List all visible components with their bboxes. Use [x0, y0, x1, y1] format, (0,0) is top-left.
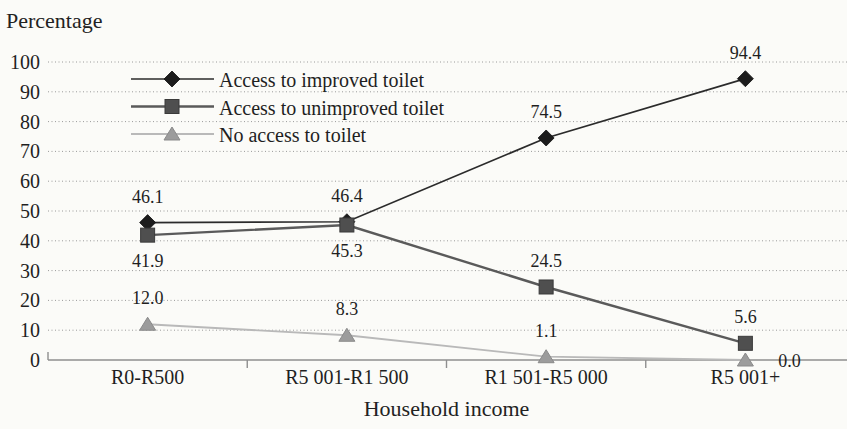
data-label-series0-1: 46.4	[331, 186, 363, 206]
marker-square-3	[738, 336, 752, 350]
series-line-2	[148, 324, 746, 360]
chart-figure: Percentage 0102030405060708090100R0-R500…	[0, 0, 847, 429]
data-label-series2-2: 1.1	[535, 321, 558, 341]
data-label-series0-3: 94.4	[730, 43, 762, 63]
data-label-series0-0: 46.1	[132, 187, 164, 207]
data-label-series0-2: 74.5	[530, 102, 562, 122]
y-tick-label: 60	[20, 170, 40, 192]
legend-square-icon	[165, 100, 179, 114]
legend-label-1: Access to unimproved toilet	[219, 97, 444, 120]
y-tick-label: 80	[20, 111, 40, 133]
y-tick-label: 70	[20, 140, 40, 162]
y-tick-label: 0	[30, 349, 40, 371]
x-tick-label: R5 001+	[711, 366, 781, 388]
legend-diamond-icon	[164, 71, 180, 87]
series-line-1	[148, 225, 746, 343]
x-tick-label: R0-R500	[111, 366, 184, 388]
marker-square-0	[141, 228, 155, 242]
data-label-series1-1: 45.3	[331, 241, 363, 261]
data-label-series2-1: 8.3	[336, 299, 359, 319]
legend-label-0: Access to improved toilet	[219, 69, 424, 92]
y-tick-label: 40	[20, 230, 40, 252]
y-tick-label: 50	[20, 200, 40, 222]
data-label-series1-2: 24.5	[530, 251, 562, 271]
data-label-series2-3: 0.0	[778, 351, 801, 371]
x-tick-label: R1 501-R5 000	[484, 366, 607, 388]
marker-diamond-2	[538, 130, 554, 146]
marker-square-1	[340, 218, 354, 232]
x-axis-title: Household income	[48, 396, 845, 422]
marker-square-2	[539, 280, 553, 294]
data-label-series1-3: 5.6	[734, 307, 757, 327]
y-tick-label: 30	[20, 260, 40, 282]
y-tick-label: 90	[20, 81, 40, 103]
marker-diamond-3	[737, 71, 753, 87]
y-tick-label: 100	[10, 51, 40, 73]
data-label-series1-0: 41.9	[132, 251, 164, 271]
legend-label-2: No access to toilet	[219, 124, 367, 146]
line-chart-canvas: 0102030405060708090100R0-R500R5 001-R1 5…	[0, 0, 847, 429]
y-tick-label: 20	[20, 289, 40, 311]
x-tick-label: R5 001-R1 500	[285, 366, 408, 388]
y-tick-label: 10	[20, 319, 40, 341]
data-label-series2-0: 12.0	[132, 288, 164, 308]
